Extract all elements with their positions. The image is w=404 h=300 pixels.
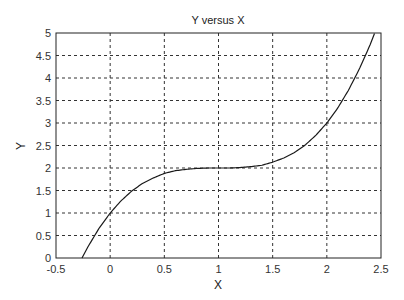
y-tick-label: 1 bbox=[45, 207, 51, 219]
y-tick-label: 5 bbox=[45, 27, 51, 39]
y-tick-label: 4 bbox=[45, 72, 51, 84]
y-tick-label: 0 bbox=[45, 252, 51, 264]
y-tick-label: 2 bbox=[45, 162, 51, 174]
y-tick-label: 0.5 bbox=[36, 230, 51, 242]
grid-lines bbox=[56, 33, 381, 258]
x-tick-label: 2 bbox=[324, 263, 330, 275]
y-axis-ticks: 00.511.522.533.544.55 bbox=[36, 27, 51, 264]
x-tick-label: -0.5 bbox=[47, 263, 66, 275]
data-line bbox=[82, 33, 375, 258]
x-tick-label: 0.5 bbox=[157, 263, 172, 275]
line-chart: -0.500.511.522.5 00.511.522.533.544.55 Y… bbox=[0, 0, 404, 300]
x-tick-label: 2.5 bbox=[373, 263, 388, 275]
y-axis-label: Y bbox=[14, 142, 28, 150]
y-tick-label: 3 bbox=[45, 117, 51, 129]
y-tick-label: 2.5 bbox=[36, 140, 51, 152]
chart-title: Y versus X bbox=[192, 14, 246, 26]
x-axis-label: X bbox=[214, 278, 222, 292]
y-tick-label: 4.5 bbox=[36, 50, 51, 62]
x-tick-label: 0 bbox=[107, 263, 113, 275]
x-tick-label: 1 bbox=[215, 263, 221, 275]
y-tick-label: 3.5 bbox=[36, 95, 51, 107]
x-tick-label: 1.5 bbox=[265, 263, 280, 275]
x-axis-ticks: -0.500.511.522.5 bbox=[47, 263, 389, 275]
y-tick-label: 1.5 bbox=[36, 185, 51, 197]
